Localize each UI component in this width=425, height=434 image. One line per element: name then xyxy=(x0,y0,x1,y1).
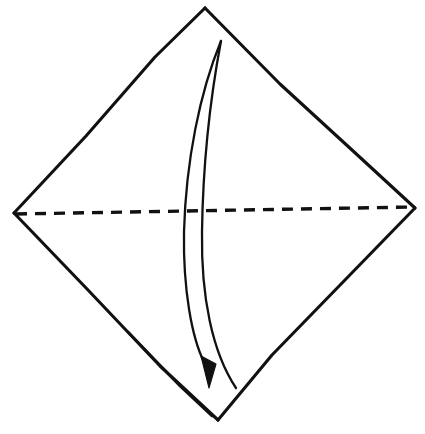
paper-bottom-left-edge-overdraw xyxy=(128,332,212,416)
paper-bottom-right-edge xyxy=(218,208,415,420)
fold-diagram-canvas: Origami fold step diagram Hand-drawn squ… xyxy=(0,0,425,434)
fold-direction-arrow xyxy=(184,41,236,388)
paper-bottom-left-edge xyxy=(14,213,218,420)
arrow-head-icon xyxy=(201,356,216,388)
crease-fold-line xyxy=(16,207,414,214)
dashed-crease-line xyxy=(16,207,414,214)
origami-fold-diagram: Origami fold step diagram Hand-drawn squ… xyxy=(0,0,425,434)
arrow-right-curve xyxy=(202,41,236,388)
paper-top-left-edge xyxy=(14,8,205,213)
paper-top-right-edge xyxy=(205,8,415,208)
